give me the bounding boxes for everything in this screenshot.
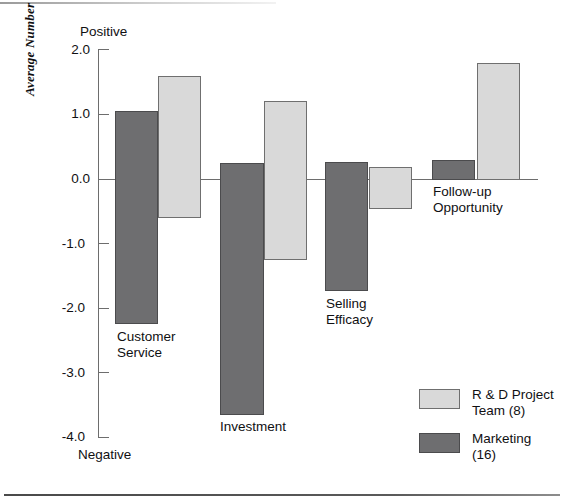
legend-swatch-marketing xyxy=(419,433,460,453)
axis-caption-negative: Negative xyxy=(78,447,131,462)
category-label-investment: Investment xyxy=(220,419,286,435)
page-bottom-rule xyxy=(4,494,560,496)
y-tick-label-neg4: -4.0 xyxy=(33,429,85,444)
category-label-line1: Investment xyxy=(220,419,286,435)
category-label-line2: Efficacy xyxy=(326,312,373,328)
category-label-line2: Service xyxy=(117,345,176,361)
y-axis-title: Average Number of Positive and Negative … xyxy=(22,0,38,96)
legend-label-rnd-team: R & D Project Team (8) xyxy=(472,387,554,419)
bar-rnd-investment[interactable] xyxy=(264,101,307,260)
legend-label-line2: Team (8) xyxy=(472,403,554,419)
legend-swatch-rnd-team xyxy=(419,389,460,409)
y-tick-2 xyxy=(98,49,109,50)
bar-marketing-customer-service[interactable] xyxy=(115,111,158,324)
bar-rnd-customer-service[interactable] xyxy=(158,76,201,218)
y-tick-label-neg1: -1.0 xyxy=(33,236,85,251)
axis-caption-positive: Positive xyxy=(80,24,127,39)
category-label-line1: Customer xyxy=(117,329,176,345)
y-tick-label-1: 1.0 xyxy=(38,106,90,121)
y-tick-neg3 xyxy=(98,372,109,373)
category-label-line1: Follow-up xyxy=(433,184,503,200)
figure-bar-chart: Average Number of Positive and Negative … xyxy=(0,0,563,503)
legend-label-marketing: Marketing (16) xyxy=(472,431,531,463)
plot-area: Customer Service Investment Selling Effi… xyxy=(98,49,538,437)
y-tick-label-0: 0.0 xyxy=(38,171,90,186)
y-tick-neg4 xyxy=(98,437,109,438)
y-tick-label-neg3: -3.0 xyxy=(33,365,85,380)
bar-marketing-follow-up-opportunity[interactable] xyxy=(432,160,475,180)
legend-label-line1: R & D Project xyxy=(472,387,554,403)
legend-label-line2: (16) xyxy=(472,447,531,463)
bar-marketing-investment[interactable] xyxy=(220,163,264,415)
category-label-customer-service: Customer Service xyxy=(117,329,176,360)
category-label-line2: Opportunity xyxy=(433,200,503,216)
legend-label-line1: Marketing xyxy=(472,431,531,447)
bar-rnd-selling-efficacy[interactable] xyxy=(369,167,412,209)
bar-marketing-selling-efficacy[interactable] xyxy=(325,162,368,291)
y-tick-neg2 xyxy=(98,308,109,309)
y-tick-neg1 xyxy=(98,243,109,244)
y-tick-1 xyxy=(98,114,109,115)
page-top-rule xyxy=(0,2,276,4)
category-label-follow-up-opportunity: Follow-up Opportunity xyxy=(433,184,503,215)
y-tick-label-2: 2.0 xyxy=(38,42,90,57)
y-tick-label-neg2: -2.0 xyxy=(33,300,85,315)
bar-rnd-follow-up-opportunity[interactable] xyxy=(477,63,520,180)
category-label-selling-efficacy: Selling Efficacy xyxy=(326,296,373,327)
category-label-line1: Selling xyxy=(326,296,373,312)
